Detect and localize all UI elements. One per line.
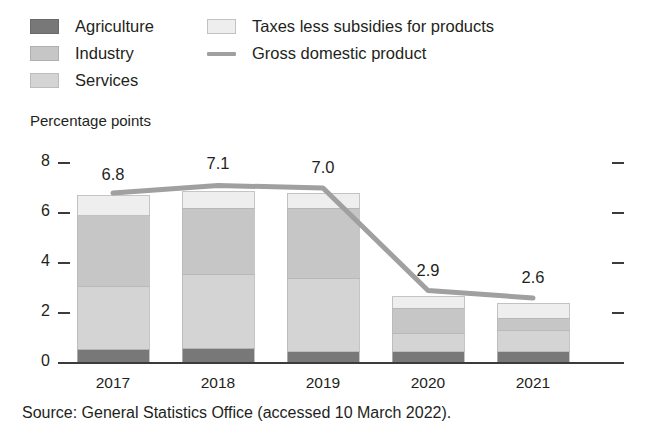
bar-segment [182, 348, 254, 363]
bar-segment [77, 287, 149, 350]
y-axis-tick-label: 2 [30, 302, 50, 320]
x-axis-tick-label: 2020 [388, 374, 468, 392]
bar-segment [77, 196, 149, 216]
bar-segment [182, 274, 254, 348]
bar-segment [392, 297, 464, 308]
chart-legend: Agriculture Industry Services Taxes less… [0, 0, 660, 100]
bars-layer [77, 192, 569, 363]
bar-segment [497, 303, 569, 318]
x-axis-tick-label: 2019 [283, 374, 363, 392]
source-note: Source: General Statistics Office (acces… [22, 404, 451, 422]
bar-segment [392, 333, 464, 352]
legend-item-industry: Industry [30, 41, 154, 65]
legend-column-left: Agriculture Industry Services [30, 14, 154, 95]
data-value-label: 7.0 [293, 158, 353, 177]
bar-segment [182, 192, 254, 208]
chart-figure: Agriculture Industry Services Taxes less… [0, 0, 660, 436]
bar-segment [77, 349, 149, 363]
gdp-line-swatch-icon [207, 46, 236, 61]
legend-label-industry: Industry [75, 43, 134, 63]
legend-label-taxes: Taxes less subsidies for products [252, 16, 494, 36]
legend-item-taxes: Taxes less subsidies for products [207, 14, 494, 38]
bar-group [77, 196, 149, 364]
bar-segment [287, 352, 359, 363]
data-value-label: 6.8 [83, 165, 143, 184]
legend-item-gdp: Gross domestic product [207, 41, 494, 65]
bar-segment [392, 352, 464, 363]
bar-segment [182, 208, 254, 274]
data-value-label: 2.9 [398, 261, 458, 280]
industry-swatch-icon [30, 46, 59, 61]
y-axis-tick-label: 4 [30, 252, 50, 270]
legend-item-agriculture: Agriculture [30, 14, 154, 38]
services-swatch-icon [30, 73, 59, 88]
bar-segment [497, 331, 569, 352]
x-axis-tick-label: 2017 [73, 374, 153, 392]
y-axis-tick-label: 6 [30, 202, 50, 220]
bar-group [182, 192, 254, 363]
taxes-swatch-icon [207, 19, 236, 34]
bar-segment [497, 352, 569, 363]
data-value-label: 2.6 [503, 268, 563, 287]
bar-group [392, 297, 464, 363]
y-axis-title: Percentage points [30, 112, 151, 129]
agriculture-swatch-icon [30, 19, 59, 34]
legend-label-agriculture: Agriculture [75, 16, 154, 36]
bar-segment [497, 318, 569, 331]
bar-segment [287, 208, 359, 278]
legend-item-services: Services [30, 68, 154, 92]
y-axis-tick-label: 8 [30, 152, 50, 170]
y-axis-tick-label: 0 [30, 352, 50, 370]
bar-segment [287, 278, 359, 352]
x-axis-tick-label: 2021 [493, 374, 573, 392]
legend-label-gdp: Gross domestic product [252, 43, 426, 63]
data-value-label: 7.1 [188, 154, 248, 173]
bar-segment [287, 193, 359, 208]
bar-segment [392, 308, 464, 333]
x-axis-tick-label: 2018 [178, 374, 258, 392]
bar-segment [77, 216, 149, 287]
bar-group [497, 303, 569, 363]
bar-group [287, 193, 359, 363]
legend-column-right: Taxes less subsidies for products Gross … [207, 14, 494, 68]
legend-label-services: Services [75, 70, 138, 90]
